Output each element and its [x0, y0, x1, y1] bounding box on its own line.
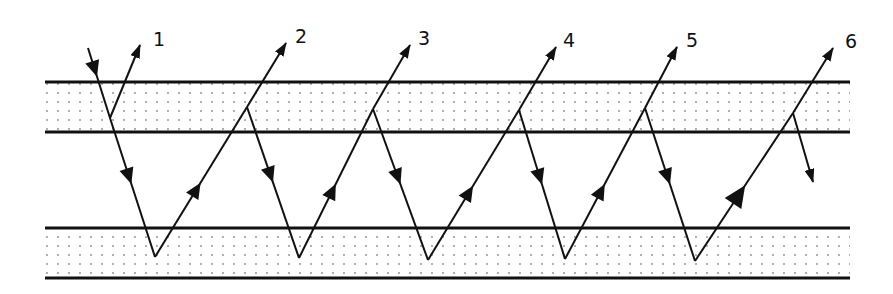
ray-label-3: 3 — [418, 27, 430, 49]
ray-labels: 123456 — [153, 25, 857, 52]
ray-label-6: 6 — [845, 30, 857, 52]
upward-arrow-icon — [186, 183, 201, 200]
ray-label-4: 4 — [563, 29, 575, 51]
ray-label-5: 5 — [686, 29, 698, 51]
downward-arrow-icon — [388, 167, 402, 184]
dotted-fill — [45, 228, 850, 278]
upper-layer — [45, 82, 850, 132]
downward-arrow-icon — [530, 167, 544, 184]
lower-layer — [45, 228, 850, 278]
upward-arrow-icon — [725, 185, 745, 209]
downward-arrow-icon — [261, 165, 275, 182]
downward-arrow-icon — [658, 167, 672, 184]
dotted-fill — [45, 82, 850, 132]
ray-label-1: 1 — [153, 28, 165, 50]
incident-ray — [88, 48, 155, 257]
layer-bands — [45, 82, 850, 278]
reflection-diagram: 123456 — [0, 0, 893, 294]
incident-arrow-icon — [85, 59, 99, 76]
ray-label-2: 2 — [295, 25, 307, 47]
upward-arrow-icon — [459, 186, 473, 203]
downward-arrow-icon — [120, 167, 134, 184]
